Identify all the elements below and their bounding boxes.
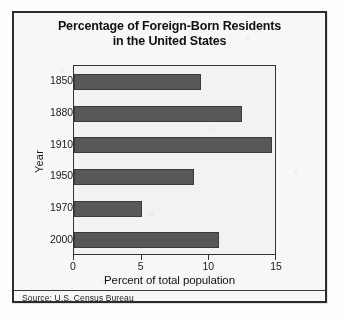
y-tick-label-1950: 1950: [36, 170, 73, 181]
y-tick-label-1850: 1850: [36, 75, 73, 86]
bar-1910: [74, 137, 272, 153]
y-tick-label-2000: 2000: [36, 234, 73, 245]
y-tick-label-1910: 1910: [36, 139, 73, 150]
x-tick-label-15: 15: [270, 260, 282, 272]
y-tick-label-1970: 1970: [36, 202, 73, 213]
bar-1950: [74, 169, 194, 185]
bar-2000: [74, 232, 219, 248]
y-tick-label-1880: 1880: [36, 107, 73, 118]
chart-title-line-2: in the United States: [14, 34, 325, 49]
x-axis-tick-labels: 051015: [73, 260, 276, 274]
chart-title: Percentage of Foreign-Born Residents in …: [14, 19, 325, 48]
y-axis-tick-labels: 185018801910195019702000: [36, 65, 73, 255]
chart-title-line-1: Percentage of Foreign-Born Residents: [14, 19, 325, 34]
x-tick-label-0: 0: [70, 260, 76, 272]
source-note: Source: U.S. Census Bureau: [22, 293, 134, 303]
bar-series: [74, 66, 275, 254]
x-axis-label: Percent of total population: [14, 274, 325, 286]
y-axis-label: Year: [20, 121, 34, 181]
footer-divider: [14, 290, 325, 291]
bar-1850: [74, 74, 201, 90]
bar-1970: [74, 201, 142, 217]
bar-1880: [74, 106, 242, 122]
scanned-page: Percentage of Foreign-Born Residents in …: [0, 0, 344, 320]
x-tick-label-5: 5: [138, 260, 144, 272]
plot-area: [73, 65, 276, 255]
x-tick-label-10: 10: [202, 260, 214, 272]
chart-figure: Percentage of Foreign-Born Residents in …: [12, 11, 327, 303]
